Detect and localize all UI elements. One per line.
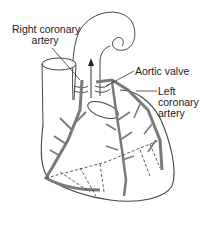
flow-arrow-head [88,58,94,66]
lad-artery [112,82,126,196]
aorta-inner [100,46,110,96]
vena-cava [42,64,76,125]
rca-branches [50,112,86,156]
label-line: artery [12,35,78,46]
label-aortic-valve: Aortic valve [135,66,189,77]
label-left-coronary-artery: Left coronary artery [158,86,199,119]
label-line: Aortic valve [135,65,189,77]
vena-cava-top [42,58,76,70]
label-line: artery [158,108,199,119]
label-right-coronary-artery: Right coronary artery [12,24,78,46]
